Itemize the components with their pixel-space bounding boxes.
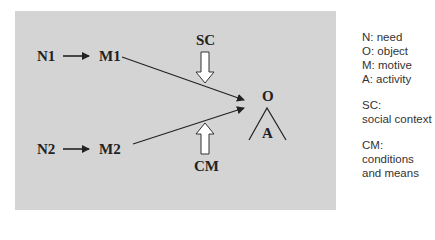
- legend-item-need: N: need: [362, 30, 432, 44]
- arrow-m2-o: [133, 108, 244, 144]
- node-n2: N2: [37, 141, 55, 157]
- block-arrow-up-icon: [196, 123, 214, 154]
- node-a: A: [262, 125, 273, 141]
- legend-item-activity: A: activity: [362, 72, 432, 86]
- legend-item-motive: M: motive: [362, 58, 432, 72]
- node-o: O: [262, 88, 274, 104]
- legend: N: need O: object M: motive A: activity …: [362, 30, 432, 192]
- legend-group-cm: CM: conditions and means: [362, 138, 432, 180]
- legend-sc-key: SC:: [362, 98, 432, 112]
- node-cm: CM: [194, 158, 219, 174]
- legend-cm-desc-1: conditions: [362, 152, 432, 166]
- node-n1: N1: [37, 48, 55, 64]
- arrow-m1-o: [122, 57, 244, 100]
- legend-cm-key: CM:: [362, 138, 432, 152]
- node-m2: M2: [99, 141, 121, 157]
- legend-group-definitions: N: need O: object M: motive A: activity: [362, 30, 432, 86]
- block-arrow-down-icon: [196, 52, 214, 83]
- legend-sc-desc: social context: [362, 112, 432, 126]
- node-m1: M1: [99, 48, 121, 64]
- legend-item-object: O: object: [362, 44, 432, 58]
- legend-cm-desc-2: and means: [362, 166, 432, 180]
- legend-group-sc: SC: social context: [362, 98, 432, 126]
- node-sc: SC: [196, 32, 215, 48]
